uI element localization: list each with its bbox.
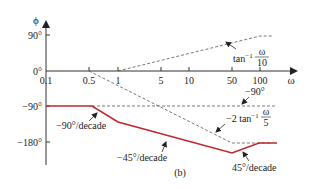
- annotation-2tan-omega-5: −2 tan−1 ω 5: [216, 106, 271, 132]
- two-tan-num: ω: [263, 106, 270, 117]
- slope-45-label: 45°/decade: [232, 162, 277, 173]
- bode-phase-plot: ϕ 90° 0° −90° −180° ω 0.1 0.5 1 5 10 50 …: [0, 0, 314, 189]
- svg-text:−2 tan−1: −2 tan−1: [226, 112, 259, 124]
- two-tan-sup: −1: [251, 112, 259, 120]
- annotation-slope-minus90: −90°/decade: [56, 113, 107, 131]
- x-tick-50: 50: [227, 75, 237, 86]
- x-tick-0.5: 0.5: [83, 75, 96, 86]
- annotation-tan-omega-10: tan−1 ω 10: [226, 42, 269, 68]
- tan-label: tan: [233, 53, 245, 64]
- x-tick-100: 100: [253, 75, 268, 86]
- x-tick-10: 10: [184, 75, 194, 86]
- annotation-minus-90: −90°: [242, 86, 265, 104]
- slope-minus45-label: −45°/decade: [117, 152, 168, 163]
- y-tick-90: 90°: [28, 30, 42, 41]
- x-axis: ω 0.1 0.5 1 5 10 50 100: [40, 67, 296, 86]
- two-tan-den: 5: [264, 117, 269, 128]
- figure-caption: (b): [174, 167, 186, 179]
- slope-minus90-label: −90°/decade: [56, 120, 107, 131]
- minus90-label: −90°: [245, 86, 265, 97]
- y-tick-minus180: −180°: [17, 137, 42, 148]
- tan-sup: −1: [245, 52, 253, 60]
- tan-den: 10: [257, 57, 267, 68]
- annotation-slope-minus45: −45°/decade: [117, 142, 168, 163]
- y-tick-minus90: −90°: [22, 101, 42, 112]
- y-axis-label: ϕ: [33, 14, 39, 26]
- x-tick-5: 5: [159, 75, 164, 86]
- annotation-slope-45: 45°/decade: [232, 152, 277, 173]
- y-axis: ϕ 90° 0° −90° −180°: [17, 14, 50, 165]
- x-tick-0.1: 0.1: [40, 75, 53, 86]
- two-tan-label: −2 tan: [226, 113, 251, 124]
- tan-num: ω: [259, 46, 266, 57]
- x-axis-label: ω: [287, 74, 294, 86]
- svg-text:tan−1: tan−1: [233, 52, 253, 64]
